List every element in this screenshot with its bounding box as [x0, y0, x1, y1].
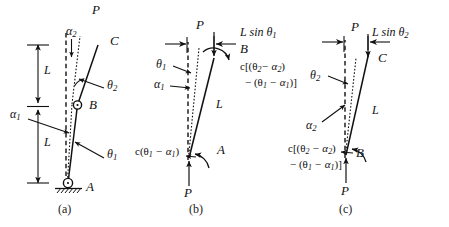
panel-b-load-top-label: P: [196, 18, 204, 31]
panel-b-moment-top: [203, 48, 229, 60]
panel-a-support-a-center: [67, 182, 69, 184]
panel-c-bar: [346, 52, 369, 155]
panel-b-moment-top-label-line1: c[(θ2− α2): [240, 61, 285, 74]
panel-a-caption: (a): [58, 203, 71, 215]
panel-a-length-lower-label: L: [44, 136, 51, 148]
panel-a-upper-bar: [78, 45, 99, 105]
panel-b-alpha1-leader: [170, 86, 190, 88]
panel-c-point-b-label: B: [356, 146, 364, 159]
panel-a-theta2-leader: [79, 79, 104, 88]
panel-b-length-label: L: [216, 98, 223, 110]
panel-c-length-label: L: [372, 104, 379, 116]
panel-c-offset-label: L sin θ2: [372, 26, 409, 40]
figure-root: P α2 C θ2 B L L α1 θ1 A (a) P L sin θ1 B…: [0, 0, 449, 227]
panel-a-lower-bar: [68, 105, 78, 183]
panel-b-offset-label: L sin θ1: [240, 26, 277, 40]
panel-a-theta2-label: θ2: [107, 79, 117, 93]
panel-a-alpha2-label: α2: [66, 25, 77, 39]
panel-a-initial-upper-bar: [72, 36, 80, 104]
panel-a-point-b-label: B: [89, 98, 97, 111]
panel-a-theta1-label: θ1: [107, 148, 117, 162]
panel-c-moment-label-line2: − (θ1 − α1)]: [290, 159, 342, 172]
panel-a-alpha1-label: α1: [10, 108, 21, 122]
panel-c-load-bottom-label: P: [341, 184, 349, 197]
panel-b-caption: (b): [189, 203, 203, 215]
panel-b-theta1-label: θ1: [156, 58, 166, 72]
panel-a-joint-b-center: [76, 104, 78, 106]
panel-c-caption: (c): [339, 203, 352, 215]
panel-c-moment-leader: [341, 152, 353, 153]
panel-c-initial-bar: [346, 58, 357, 155]
panel-a-alpha1-leader: [28, 119, 69, 133]
panel-a-graphics: [27, 33, 104, 193]
panel-a-ground-hatch: [57, 189, 81, 193]
panel-a-load-label: P: [92, 3, 100, 16]
panel-b-point-a-label: A: [217, 143, 225, 156]
panel-a-point-c-label: C: [110, 34, 119, 47]
panel-a-theta1-leader: [75, 142, 104, 158]
panel-c-load-top-label: P: [351, 20, 359, 33]
panel-b-bar: [189, 58, 214, 158]
panel-b-moment-top-label-line2: − (θ1 − α1)]: [245, 77, 297, 90]
panel-c-theta2-label: θ2: [310, 69, 320, 83]
panel-c-alpha2-leader: [322, 105, 345, 122]
panel-c-alpha2-label: α2: [306, 119, 317, 133]
panel-c-point-c-label: C: [378, 51, 387, 64]
panel-b-point-b-label: B: [240, 42, 248, 55]
panel-c-moment-label-line1: c[(θ2 − α2): [288, 143, 336, 156]
panel-b-graphics: [165, 32, 236, 186]
panel-b-alpha1-label: α1: [154, 78, 165, 92]
panel-b-load-bottom-label: P: [184, 186, 192, 199]
panel-b-moment-base: [195, 154, 209, 168]
panel-a-point-a-label: A: [86, 180, 94, 193]
panel-a-length-upper-label: L: [44, 64, 51, 76]
panel-b-moment-base-label: c(θ1 − α1): [135, 146, 179, 159]
